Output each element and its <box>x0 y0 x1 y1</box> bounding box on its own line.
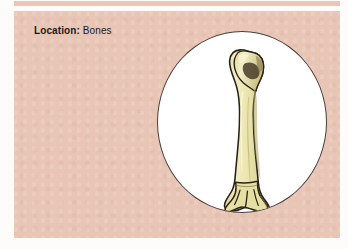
location-label: Location: <box>34 25 80 36</box>
bone-illustration-circle <box>157 31 327 213</box>
long-bone-icon <box>158 32 326 212</box>
top-accent-strip <box>14 1 340 6</box>
location-value: Bones <box>83 25 112 36</box>
bone-body <box>225 50 270 212</box>
content-panel: Location: Bones <box>14 11 340 238</box>
page-root: Location: Bones <box>0 0 348 249</box>
location-caption: Location: Bones <box>34 24 112 37</box>
